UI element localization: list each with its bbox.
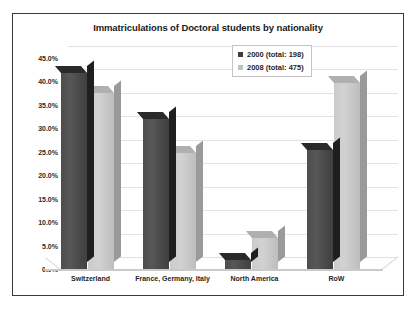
x-axis-category-label: Switzerland <box>71 275 110 282</box>
bar-top-face <box>219 253 251 260</box>
y-axis-tick-label: 40.0% <box>14 78 58 85</box>
chart-legend: 2000 (total: 198) 2008 (total: 475) <box>232 45 312 77</box>
bar-side-face <box>114 80 121 262</box>
x-axis-category-label: France, Germany, Italy <box>135 275 210 282</box>
bar-top-face <box>301 143 333 150</box>
bar-front-face <box>61 73 87 269</box>
legend-item-2008[interactable]: 2008 (total: 475) <box>238 63 304 72</box>
x-axis-category-label: North America <box>231 275 279 282</box>
bar-2000-2[interactable] <box>225 260 251 269</box>
y-axis-tick-label: 35.0% <box>14 101 58 108</box>
y-axis-tick-label: 20.0% <box>14 172 58 179</box>
legend-label-2000: 2000 (total: 198) <box>247 50 304 59</box>
bar-top-face <box>137 112 169 119</box>
y-axis-tick-label: 5.0% <box>14 242 58 249</box>
bar-side-face <box>333 138 340 262</box>
y-axis-tick-label: 15.0% <box>14 195 58 202</box>
bar-side-face <box>196 140 203 262</box>
bar-side-face <box>360 71 367 262</box>
chart-frame: Immatriculations of Doctoral students by… <box>12 13 404 296</box>
bar-front-face <box>307 150 333 269</box>
bar-front-face <box>143 119 169 269</box>
bar-2000-0[interactable] <box>61 73 87 269</box>
x-axis-category-label: RoW <box>329 275 345 282</box>
legend-label-2008: 2008 (total: 475) <box>247 63 304 72</box>
bar-top-face <box>55 66 87 73</box>
y-axis-tick-label: 10.0% <box>14 219 58 226</box>
plot-area: 45.0%40.0%35.0%30.0%25.0%20.0%15.0%10.0%… <box>13 14 405 297</box>
bar-side-face <box>169 106 176 262</box>
bar-2000-3[interactable] <box>307 150 333 269</box>
y-axis-tick-label: 25.0% <box>14 148 58 155</box>
bar-2000-1[interactable] <box>143 119 169 269</box>
bar-front-face <box>225 260 251 269</box>
legend-item-2000[interactable]: 2000 (total: 198) <box>238 50 304 59</box>
floor-right-edge <box>382 257 399 270</box>
bar-top-face <box>246 231 278 238</box>
legend-swatch-2008-icon <box>238 65 243 70</box>
legend-swatch-2000-icon <box>238 52 243 57</box>
bar-top-face <box>328 76 360 83</box>
y-axis-tick-label: 45.0% <box>14 54 58 61</box>
y-axis-tick-label: 30.0% <box>14 125 58 132</box>
bar-side-face <box>87 61 94 262</box>
floor-front-edge <box>45 269 383 271</box>
bar-side-face <box>278 226 285 262</box>
